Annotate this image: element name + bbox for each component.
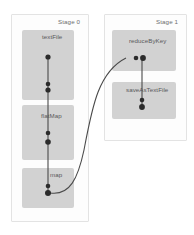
rdd-node-map[interactable] bbox=[22, 168, 74, 208]
rdd-node-label-flatmap: flatMap bbox=[41, 112, 62, 119]
rdd-node-textfile[interactable] bbox=[22, 30, 74, 100]
rdd-node-label-reducebykey: reduceByKey bbox=[129, 37, 166, 44]
rdd-node-label-map: map bbox=[50, 171, 62, 178]
dag-canvas: Stage 0 Stage 1 textFile flatMap map red… bbox=[0, 0, 194, 235]
stage-label-stage-1: Stage 1 bbox=[156, 18, 178, 25]
rdd-node-label-saveastextfile: saveAsTextFile bbox=[126, 86, 168, 93]
rdd-node-label-textfile: textFile bbox=[42, 33, 62, 40]
stage-label-stage-0: Stage 0 bbox=[58, 18, 80, 25]
